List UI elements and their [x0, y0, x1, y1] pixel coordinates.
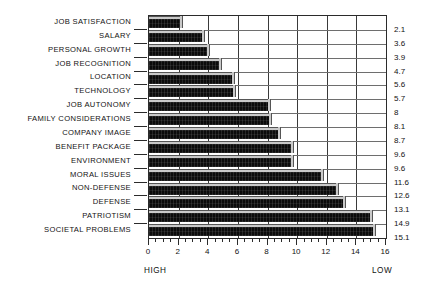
category-label: FAMILY CONSIDERATIONS [0, 114, 131, 123]
bar-texture [149, 143, 291, 153]
x-axis-tick-label: 14 [351, 247, 360, 256]
bar-texture [149, 226, 373, 236]
bar-right-highlight [180, 16, 183, 28]
category-label: JOB RECOGNITION [0, 59, 131, 68]
x-axis-minor-tick [311, 239, 312, 242]
category-label: BENEFIT PACKAGE [0, 142, 131, 151]
category-axis: JOB SATISFACTIONSALARYPERSONAL GROWTHJOB… [0, 15, 131, 239]
category-label: JOB AUTONOMY [0, 100, 131, 109]
value-label: 8.7 [394, 136, 405, 145]
x-axis-minor-tick [333, 239, 334, 242]
bar [149, 87, 233, 97]
bar-top-highlight [149, 85, 233, 88]
x-axis-minor-tick [370, 239, 371, 242]
value-label: 3.6 [394, 39, 405, 48]
bar-right-highlight [370, 210, 373, 222]
x-axis-minor-tick [200, 239, 201, 242]
bar-texture [149, 32, 202, 42]
bar-top-highlight [149, 113, 269, 116]
bar-top-highlight [149, 127, 278, 130]
x-axis-tick-label: 10 [292, 247, 301, 256]
category-tick [134, 71, 147, 72]
value-label: 2.1 [394, 25, 405, 34]
category-tick [134, 112, 147, 113]
bar-top-highlight [149, 196, 343, 199]
value-label: 8 [394, 108, 398, 117]
bar-texture [149, 171, 321, 181]
category-tick [134, 29, 147, 30]
category-tick [134, 209, 147, 210]
x-axis-minor-tick [244, 239, 245, 242]
bar-right-highlight [233, 85, 236, 97]
value-label: 9.6 [394, 150, 405, 159]
bar [149, 185, 336, 195]
bar [149, 46, 207, 56]
bar-right-highlight [207, 44, 210, 56]
category-label: ENVIRONMENT [0, 156, 131, 165]
bar-right-highlight [291, 141, 294, 153]
bar-right-highlight [269, 113, 272, 125]
x-axis-tick-labels: 0246810121416 [148, 247, 387, 259]
bar [149, 18, 180, 28]
bar-right-highlight [202, 30, 205, 42]
x-axis-tick-label: 6 [235, 247, 239, 256]
bar-right-highlight [373, 224, 376, 236]
category-label: NON-DEFENSE [0, 183, 131, 192]
x-axis-minor-tick [289, 239, 290, 242]
bar [149, 32, 202, 42]
x-axis-major-tick [178, 239, 179, 245]
value-label: 9.6 [394, 164, 405, 173]
axis-end-label-low: LOW [372, 266, 392, 275]
bar-right-highlight [291, 155, 294, 167]
x-axis-major-tick [355, 239, 356, 245]
x-axis-minor-tick [192, 239, 193, 242]
category-label: SOCIETAL PROBLEMS [0, 225, 131, 234]
bar-top-highlight [149, 183, 336, 186]
x-axis-minor-tick [348, 239, 349, 242]
value-label: 8.1 [394, 122, 405, 131]
bar-texture [149, 129, 278, 139]
category-label: MORAL ISSUES [0, 170, 131, 179]
bar-texture [149, 157, 291, 167]
category-label: COMPANY IMAGE [0, 128, 131, 137]
x-axis-minor-tick [229, 239, 230, 242]
category-tick [134, 126, 147, 127]
bar [149, 157, 291, 167]
value-label: 5.6 [394, 80, 405, 89]
bar-right-highlight [268, 99, 271, 111]
bar-top-highlight [149, 99, 268, 102]
bar [149, 198, 343, 208]
bar [149, 226, 373, 236]
x-axis-minor-tick [222, 239, 223, 242]
category-label: TECHNOLOGY [0, 86, 131, 95]
category-label: PATRIOTISM [0, 211, 131, 220]
x-axis-ticks [148, 239, 387, 246]
x-axis-major-tick [148, 239, 149, 245]
x-axis-minor-tick [274, 239, 275, 242]
bar-top-highlight [149, 44, 207, 47]
bar-right-highlight [321, 169, 324, 181]
bar [149, 115, 269, 125]
bar-top-highlight [149, 169, 321, 172]
category-label: SALARY [0, 31, 131, 40]
bar-texture [149, 60, 219, 70]
category-tick [134, 98, 147, 99]
category-tick [134, 140, 147, 141]
bar-texture [149, 115, 269, 125]
x-axis-minor-tick [378, 239, 379, 242]
x-axis-major-tick [237, 239, 238, 245]
category-tick [134, 84, 147, 85]
x-axis-tick-label: 4 [205, 247, 209, 256]
x-axis-minor-tick [363, 239, 364, 242]
x-axis-tick-label: 12 [321, 247, 330, 256]
category-tick [134, 182, 147, 183]
bar [149, 143, 291, 153]
x-axis-tick-label: 16 [381, 247, 390, 256]
x-axis-major-tick [385, 239, 386, 245]
bar [149, 60, 219, 70]
x-axis-minor-tick [155, 239, 156, 242]
category-tick [134, 168, 147, 169]
value-label: 4.7 [394, 67, 405, 76]
axis-end-label-high: HIGH [144, 266, 166, 275]
bar-texture [149, 74, 232, 84]
